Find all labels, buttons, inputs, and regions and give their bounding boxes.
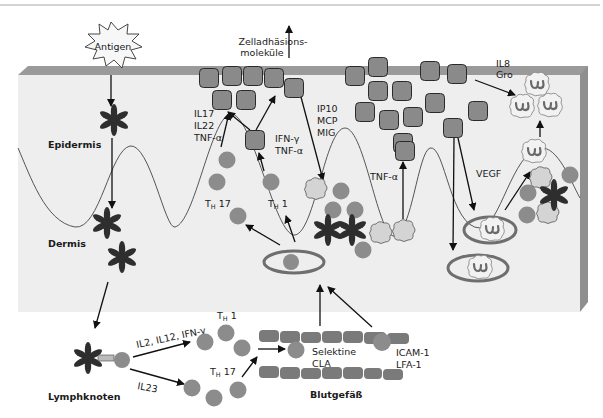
mhc-tcr-synapse	[98, 355, 114, 361]
selectins-label: Selektine	[312, 346, 356, 357]
il2-il12-ifng-label: IL2, IL12, IFN-γ	[135, 324, 207, 350]
cla-label: CLA	[312, 358, 331, 369]
adhesion-molecules-label-2: moleküle	[240, 47, 283, 58]
il17-label: IL17	[194, 108, 214, 119]
svg-text:Antigen: Antigen	[95, 41, 132, 52]
macrophage-icon	[530, 167, 553, 189]
gro-label: Gro	[496, 69, 513, 80]
mig-label: MIG	[317, 127, 335, 138]
ip10-label: IP10	[317, 103, 338, 114]
macrophage-icon	[305, 178, 328, 200]
th1-skin-cell	[263, 174, 280, 191]
mcp-label: MCP	[317, 115, 338, 126]
vegf-label: VEGF	[476, 168, 501, 179]
dermis-label: Dermis	[48, 238, 86, 249]
macrophage-icon	[393, 220, 416, 242]
t-cell-icon	[373, 333, 391, 351]
lymph-node-label: Lymphknoten	[48, 391, 121, 402]
tnf-alpha-label-3: TNF-α	[369, 171, 398, 182]
tnf-alpha-label-2: TNF-α	[274, 145, 303, 156]
epidermis-label: Epidermis	[48, 139, 102, 150]
adhesion-molecules-label: Zelladhäsions-	[238, 36, 307, 47]
t-cell-icon	[288, 342, 305, 359]
il23-label: IL23	[137, 380, 159, 394]
th17-ln-label: TH 17	[209, 366, 236, 379]
ifn-gamma-label: IFN-γ	[275, 133, 300, 144]
antigen-icon: Antigen	[85, 22, 142, 68]
lfa1-label: LFA-1	[396, 359, 422, 370]
th17-cell-cluster	[184, 380, 247, 407]
psoriasis-pathogenesis-diagram: Antigen Zelladhäsions- moleküle IL8 Gro	[0, 0, 603, 418]
macrophage-icon	[370, 222, 393, 244]
blood-vessel-label: Blutgefäß	[310, 389, 363, 400]
t-cell-icon	[114, 352, 130, 368]
il8-label: IL8	[496, 58, 510, 69]
icam1-label: ICAM-1	[396, 347, 430, 358]
tnf-alpha-label-1: TNF-α	[193, 132, 222, 143]
il22-label: IL22	[194, 120, 214, 131]
